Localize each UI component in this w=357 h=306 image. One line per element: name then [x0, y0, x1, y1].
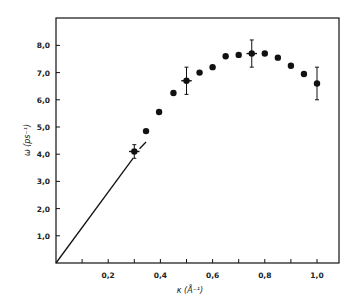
dispersion-lines [56, 142, 146, 263]
y-tick-label: 1,0 [37, 232, 50, 241]
data-point [183, 78, 189, 84]
x-tick-label: 1,0 [310, 271, 323, 280]
data-point [222, 53, 228, 59]
y-tick-label: 2,0 [37, 205, 50, 214]
data-point [301, 71, 307, 77]
data-point [275, 54, 281, 60]
x-tick-label: 0,8 [258, 271, 271, 280]
y-tick-label: 3,0 [37, 177, 50, 186]
y-axis-label: ω (ps⁻¹) [23, 124, 32, 156]
data-point [236, 52, 242, 58]
y-tick-label: 4,0 [37, 150, 50, 159]
plot-frame [56, 18, 339, 263]
data-point [262, 50, 268, 56]
data-points [131, 50, 320, 154]
x-axis: 0,20,40,60,81,0 [82, 259, 324, 280]
data-point [131, 148, 137, 154]
data-point [288, 63, 294, 69]
data-point [314, 80, 320, 86]
dispersion-line [56, 158, 133, 263]
data-point [170, 90, 176, 96]
data-point [143, 128, 149, 134]
x-axis-label: κ (Å⁻¹) [177, 284, 203, 295]
y-tick-label: 6,0 [37, 96, 50, 105]
dispersion-line [140, 142, 147, 149]
dispersion-chart: 0,20,40,60,81,0 1,02,03,04,05,06,07,08,0… [0, 0, 357, 306]
x-tick-label: 0,6 [206, 271, 219, 280]
data-point [209, 64, 215, 70]
data-point [156, 109, 162, 115]
y-tick-label: 5,0 [37, 123, 50, 132]
data-point [249, 50, 255, 56]
data-point [196, 69, 202, 75]
plot-border [56, 18, 339, 263]
y-tick-label: 7,0 [37, 69, 50, 78]
x-tick-label: 0,4 [154, 271, 167, 280]
y-tick-label: 8,0 [37, 41, 50, 50]
x-tick-label: 0,2 [102, 271, 115, 280]
